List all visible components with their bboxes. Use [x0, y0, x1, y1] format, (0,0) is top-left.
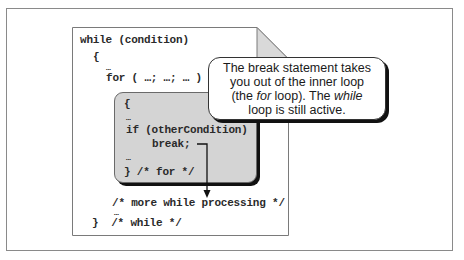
callout-line-4: loop is still active. — [209, 103, 385, 117]
callout-line-2: you out of the inner loop — [209, 75, 385, 89]
code-while-header: while (condition) — [80, 35, 189, 46]
code-for-open: { — [124, 99, 130, 110]
code-for-ellipsis-2: … — [126, 152, 131, 163]
code-while-close: } /* while */ — [92, 218, 182, 229]
explanation-callout: The break statement takes you out of the… — [208, 57, 386, 120]
code-if-line: if (otherCondition) — [126, 125, 248, 136]
code-for-header: for ( …; …; … ) — [106, 73, 202, 84]
callout-line-1: The break statement takes — [209, 61, 385, 75]
callout-while-keyword: while — [334, 89, 363, 103]
callout-line-3: (the for loop). The while — [209, 89, 385, 103]
code-for-close: } /* for */ — [124, 167, 194, 178]
code-for-ellipsis-1: … — [126, 112, 131, 123]
code-more-processing: /* more while processing */ — [112, 198, 285, 209]
callout-line-3-mid: loop). The — [271, 89, 334, 103]
code-while-open: { — [93, 52, 99, 63]
code-break-line: break; — [152, 139, 190, 150]
page-fold — [257, 28, 289, 60]
callout-for-keyword: for — [256, 89, 271, 103]
callout-line-3-pre: (the — [231, 89, 256, 103]
